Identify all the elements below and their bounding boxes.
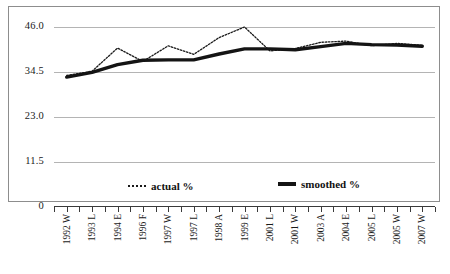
x-axis-tick-label: 2007 W <box>417 214 427 244</box>
x-axis-tick <box>143 207 144 212</box>
chart-frame: 011.523.034.546.0 actual % smoothed % <box>8 6 440 202</box>
x-axis-tick-label: 1996 F <box>138 214 148 241</box>
x-axis-tick <box>435 207 436 212</box>
series-lines <box>54 27 435 207</box>
x-axis-tick-label: 2001 W <box>290 214 300 244</box>
y-axis-tick-label: 11.5 <box>4 155 44 166</box>
x-axis-tick-label: 1994 E <box>113 214 123 241</box>
x-axis-tick-label: 2004 E <box>341 214 351 241</box>
x-axis-tick-label: 1992 W <box>62 214 72 244</box>
plot-area: actual % smoothed % <box>54 27 435 207</box>
x-axis-tick <box>245 207 246 212</box>
x-axis-tick <box>79 207 80 212</box>
x-axis-tick <box>67 207 68 212</box>
x-axis-tick <box>384 207 385 212</box>
x-axis-tick <box>181 207 182 212</box>
x-axis-tick <box>410 207 411 212</box>
x-axis-tick <box>422 207 423 212</box>
y-axis-tick-label: 0 <box>4 200 44 211</box>
x-axis-tick-label: 1997 L <box>189 214 199 241</box>
x-axis-tick-label: 1993 L <box>87 214 97 241</box>
x-axis-tick <box>346 207 347 212</box>
y-axis-tick-label: 34.5 <box>4 65 44 76</box>
legend-label-smoothed: smoothed % <box>301 178 360 190</box>
x-axis-tick <box>130 207 131 212</box>
series-line-smoothed <box>67 43 423 77</box>
x-axis-tick <box>333 207 334 212</box>
legend-item-smoothed: smoothed % <box>278 177 360 190</box>
x-axis-tick <box>359 207 360 212</box>
x-axis-tick-label: 2001 L <box>265 214 275 241</box>
x-axis-tick-label: 1999 E <box>240 214 250 241</box>
thick-line-icon <box>278 182 296 186</box>
x-axis-tick-label: 1998 A <box>214 214 224 242</box>
y-axis-tick-label: 23.0 <box>4 110 44 121</box>
x-axis-tick <box>372 207 373 212</box>
x-axis-tick-label: 2005 W <box>392 214 402 244</box>
x-axis-tick-label: 1997 W <box>163 214 173 244</box>
x-axis-tick-label: 2005 L <box>367 214 377 241</box>
x-axis-tick <box>219 207 220 212</box>
x-axis-tick <box>156 207 157 212</box>
x-axis-tick <box>321 207 322 212</box>
legend-label-actual: actual % <box>151 180 193 192</box>
x-axis-tick <box>308 207 309 212</box>
x-axis-tick <box>92 207 93 212</box>
x-axis-tick <box>194 207 195 212</box>
x-axis-tick <box>257 207 258 212</box>
x-axis-tick <box>206 207 207 212</box>
dotted-line-icon <box>128 185 146 187</box>
x-axis-tick <box>283 207 284 212</box>
series-line-actual <box>67 27 423 76</box>
legend-item-actual: actual % <box>128 179 193 192</box>
chart-screenshot: 011.523.034.546.0 actual % smoothed % 19… <box>0 0 450 274</box>
x-axis-tick <box>168 207 169 212</box>
x-axis-tick <box>270 207 271 212</box>
x-axis-tick <box>54 207 55 212</box>
x-axis-tick <box>397 207 398 212</box>
x-axis-tick-label: 2003 A <box>316 214 326 242</box>
x-axis-ticks <box>54 207 435 213</box>
x-axis-tick <box>105 207 106 212</box>
y-axis-tick-label: 46.0 <box>4 20 44 31</box>
x-axis-tick <box>118 207 119 212</box>
x-axis-tick <box>295 207 296 212</box>
x-axis-tick <box>232 207 233 212</box>
